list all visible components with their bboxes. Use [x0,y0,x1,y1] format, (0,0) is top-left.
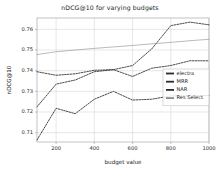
x-tick-label-3: 800 [166,145,176,151]
x-tick-label-1: 400 [89,145,99,151]
x-tick-label-0: 200 [51,145,61,151]
legend-label-nar: NAR [177,86,188,92]
x-tick-label-4: 1000 [202,145,215,151]
y-axis-label: nDCG@10 [6,65,12,94]
line-chart-plot: 0.710.720.730.740.750.76 200400600800100… [0,0,220,174]
chart-legend: electraMRRNARRes Select [163,69,209,106]
legend-label-electra: electra [177,70,195,76]
y-tick-label-0: 0.71 [21,129,33,135]
chart-figure: nDCG@10 for varying budgets 0.710.720.73… [0,0,220,174]
x-tick-label-2: 600 [128,145,138,151]
legend-label-mrr: MRR [177,78,189,84]
x-axis-label: budget value [105,159,142,166]
legend-label-res-select: Res Select [177,94,203,100]
y-tick-label-5: 0.76 [21,26,33,32]
x-axis-ticks [56,142,209,144]
x-axis-tick-labels: 2004006008001000 [51,145,215,151]
y-axis-tick-labels: 0.710.720.730.740.750.76 [21,26,33,135]
y-tick-label-1: 0.72 [21,108,33,114]
y-tick-label-4: 0.75 [21,46,33,52]
y-tick-label-2: 0.73 [21,88,33,94]
y-tick-label-3: 0.74 [21,67,33,73]
